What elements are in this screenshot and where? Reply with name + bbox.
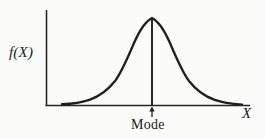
bell-curve-figure: f(X) X Mode [0, 0, 265, 139]
y-axis-label: f(X) [9, 45, 33, 60]
mode-arrow-head-icon [149, 107, 154, 112]
mode-annotation-label: Mode [131, 118, 165, 132]
x-axis-label: X [242, 106, 251, 121]
